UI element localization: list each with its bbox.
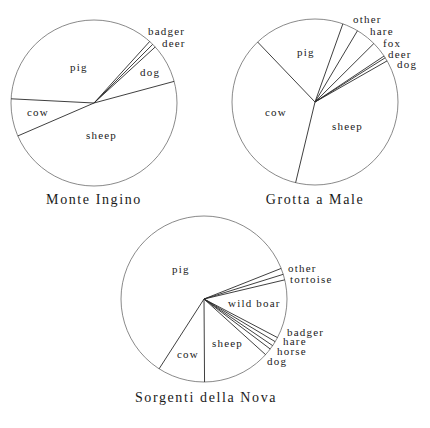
- slice-label-sheep: sheep: [332, 120, 363, 132]
- chart-title-grotta-a-male: Grotta a Male: [266, 192, 365, 207]
- slice-label-pig: pig: [172, 263, 190, 275]
- slice-label-deer: deer: [162, 37, 186, 49]
- slice-label-other: other: [353, 13, 382, 25]
- slice-label-pig: pig: [297, 46, 315, 58]
- slice-label-cow: cow: [265, 106, 287, 118]
- slice-label-pig: pig: [70, 61, 88, 73]
- pie-monte-ingino: badger deer pig dog cow sheep Monte Ingi…: [11, 20, 186, 207]
- slice-label-badger: badger: [148, 25, 185, 37]
- slice-label-sheep: sheep: [212, 337, 243, 349]
- pie-chart-figure: badger deer pig dog cow sheep Monte Ingi…: [0, 0, 430, 428]
- slice-label-cow: cow: [177, 348, 199, 360]
- slice-label-hare: hare: [370, 25, 394, 37]
- slice-label-dog: dog: [140, 66, 160, 78]
- slice-label-dog: dog: [397, 58, 417, 70]
- slice-label-sheep: sheep: [86, 129, 117, 141]
- slice-label-tortoise: tortoise: [290, 273, 333, 285]
- slice-label-dog: dog: [267, 355, 287, 367]
- pie-sorgenti-della-nova: pig other tortoise wild boar badger hare…: [121, 216, 333, 405]
- slice-label-cow: cow: [27, 106, 49, 118]
- slice-label-wild-boar: wild boar: [228, 297, 281, 309]
- pie-grotta-a-male: other hare fox deer dog pig cow sheep Gr…: [232, 13, 417, 207]
- chart-title-sorgenti-della-nova: Sorgenti della Nova: [135, 390, 277, 405]
- chart-title-monte-ingino: Monte Ingino: [46, 192, 142, 207]
- slice-boundary-line: [204, 299, 205, 382]
